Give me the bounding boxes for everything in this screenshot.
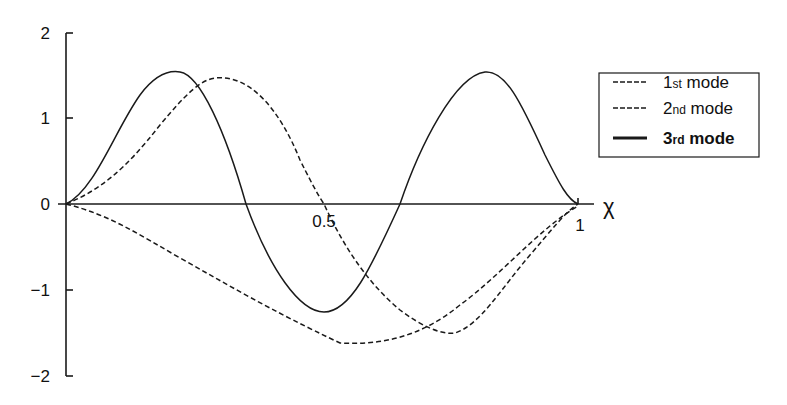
legend-label-1-word: mode <box>682 73 729 92</box>
legend-label-2-suffix: nd <box>672 103 685 117</box>
legend-label-1-num: 1 <box>663 73 672 92</box>
x-axis <box>58 198 594 204</box>
y-tick-1: 1 <box>41 109 50 128</box>
y-tick-0: 0 <box>41 195 50 214</box>
legend-label-3-num: 3 <box>663 129 672 148</box>
legend-label-2-num: 2 <box>663 99 672 118</box>
legend-label-2-word: mode <box>686 99 733 118</box>
series-2nd-mode <box>66 78 578 334</box>
x-tick-1: 1 <box>575 216 584 235</box>
legend: 1st mode 2nd mode 3rd mode <box>599 73 759 157</box>
legend-label-3-word: mode <box>684 129 734 148</box>
x-axis-label: χ <box>603 194 615 219</box>
mode-shape-chart: 2 1 0 −1 −2 0.5 1 χ 1st mode 2nd mode <box>0 0 787 405</box>
y-tick-labels: 2 1 0 −1 −2 <box>31 24 50 386</box>
y-tick-neg2: −2 <box>31 367 50 386</box>
legend-label-3-suffix: rd <box>672 133 684 147</box>
y-tick-2: 2 <box>41 24 50 43</box>
y-tick-neg1: −1 <box>31 281 50 300</box>
series-3rd-mode <box>66 72 578 312</box>
